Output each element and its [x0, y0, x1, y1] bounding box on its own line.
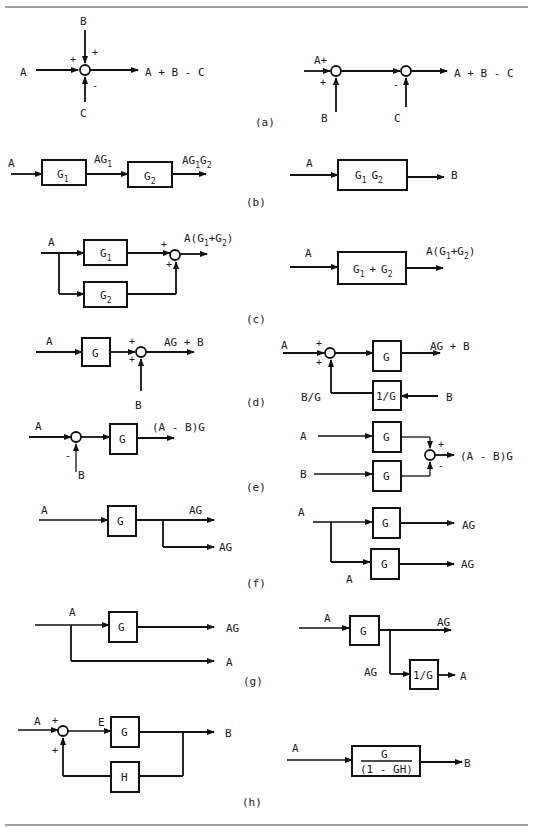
panel-d-right: A + + G AG + B 1/G B B/G: [281, 338, 470, 410]
block-g-label: G: [383, 351, 390, 364]
feed-label: B/G: [301, 391, 321, 404]
panel-d-left: A G + + B AG + B: [36, 335, 204, 412]
sign-b: -: [65, 450, 71, 461]
error-label: E: [98, 716, 105, 729]
summing-junction-2: [401, 66, 411, 76]
block-g-label: G: [118, 621, 125, 634]
block-diagram-reduction-figure: A B C + + - A + B - C A+ + B - C A: [0, 0, 533, 827]
sign-b: +: [92, 47, 98, 58]
output-label: A + B - C: [454, 67, 514, 80]
block-g-b-label: G: [383, 470, 390, 483]
b-input-label: B: [446, 391, 453, 404]
output-label: AG + B: [164, 336, 204, 349]
panel-d: A G + + B AG + B A + + G AG + B 1/G: [36, 335, 470, 412]
input-label: A: [35, 420, 42, 433]
sign-upper: +: [129, 336, 135, 347]
output-label-1: AG: [462, 519, 475, 532]
input-label-b: B: [80, 15, 87, 28]
output-label: A + B - C: [145, 66, 205, 79]
panel-g-left: A G AG A: [35, 606, 239, 669]
caption-c: (c): [246, 313, 266, 326]
block-g-2-label: G: [381, 558, 388, 571]
output-label: A(G1+G2): [426, 245, 475, 261]
input-label: A: [8, 157, 15, 170]
branch-label: AG: [364, 666, 377, 679]
input-label: A: [324, 612, 331, 625]
input-label-b: B: [321, 112, 328, 125]
b-input-label: B: [78, 469, 85, 482]
sign-input: +: [52, 715, 58, 726]
output-label-2: A: [226, 656, 233, 669]
output-label: B: [464, 757, 471, 770]
block-g-label: G: [119, 433, 126, 446]
caption-b: (b): [246, 196, 266, 209]
panel-a: A B C + + - A + B - C A+ + B - C A: [20, 15, 514, 129]
intermediate-label: AG1: [94, 153, 112, 169]
caption-a: (a): [255, 116, 275, 129]
sign-g1: +: [161, 239, 167, 250]
input-label-c: C: [394, 112, 401, 125]
input-label-a: A+: [314, 54, 328, 67]
output-label-2: AG: [461, 558, 474, 571]
panel-e-right: A G B G + - (A - B)G: [300, 422, 513, 491]
panel-f-left: A G AG AG: [39, 504, 232, 554]
input-label: A: [306, 157, 313, 170]
panel-e: A - B G (A - B)G A G B G +: [29, 420, 513, 494]
branch-label: A: [346, 573, 353, 586]
sign-lower: +: [316, 357, 322, 368]
sign-upper: +: [316, 338, 322, 349]
panel-c-right: A G1+G2 A(G1+G2): [290, 245, 475, 284]
input-label: A: [292, 742, 299, 755]
sign-a: +: [70, 54, 76, 65]
input-label: A: [41, 504, 48, 517]
input-label: A: [34, 715, 41, 728]
summing-junction: [425, 450, 435, 460]
output-label: B: [225, 727, 232, 740]
output-label: B: [451, 169, 458, 182]
b-input-label: B: [135, 399, 142, 412]
summing-junction: [136, 347, 146, 357]
summing-junction-1: [331, 66, 341, 76]
denominator-label: (1 - GH): [360, 763, 413, 776]
panel-g: A G AG A A G AG AG 1/G A (g): [35, 606, 467, 689]
input-label: A: [48, 236, 55, 249]
block-g-a-label: G: [383, 431, 390, 444]
panel-a-right: A+ + B - C A + B - C: [304, 54, 514, 125]
panel-e-left: A - B G (A - B)G: [29, 420, 205, 482]
panel-g-right: A G AG AG 1/G A: [299, 612, 467, 689]
input-label: A: [69, 606, 76, 619]
panel-a-left: A B C + + - A + B - C: [20, 15, 205, 120]
panel-f-right: A A G G AG AG: [298, 506, 475, 586]
caption-g: (g): [243, 675, 263, 688]
block-h-label: H: [121, 771, 128, 784]
sign-c: -: [92, 80, 98, 91]
summing-junction: [80, 65, 90, 75]
panel-b-right: A G1G2 B: [290, 157, 458, 190]
caption-f: (f): [246, 577, 266, 590]
caption-h: (h): [242, 796, 262, 809]
input-label-a: A: [300, 430, 307, 443]
panel-h-right: A G (1 - GH) B: [287, 742, 471, 776]
block-g-label: G: [121, 726, 128, 739]
output-label: (A - B)G: [152, 421, 205, 434]
panel-b: A G1 AG1 G2 AG1G2 A G1G2 B (b): [8, 153, 458, 209]
input-label: A: [46, 335, 53, 348]
sign-g2: +: [166, 259, 172, 270]
caption-d: (d): [246, 396, 266, 409]
output-label: AG: [437, 616, 450, 629]
panel-h-left: A + + E G B H: [18, 715, 232, 792]
panel-h: A + + E G B H A G (1 - GH) B: [18, 715, 471, 809]
sign-b: +: [320, 77, 326, 88]
numerator-label: G: [381, 748, 388, 761]
block-g-1-label: G: [382, 517, 389, 530]
summing-junction: [71, 432, 81, 442]
output-label-1: AG: [226, 622, 239, 635]
sign-c: -: [393, 79, 399, 90]
sign-lower: +: [129, 354, 135, 365]
output-label: AG + B: [430, 340, 470, 353]
output-label: (A - B)G: [460, 450, 513, 463]
input-label: A: [298, 506, 305, 519]
input-label-b: B: [300, 468, 307, 481]
block-g-label: G: [117, 515, 124, 528]
panel-f: A G AG AG A A G G AG AG (f): [39, 504, 475, 590]
